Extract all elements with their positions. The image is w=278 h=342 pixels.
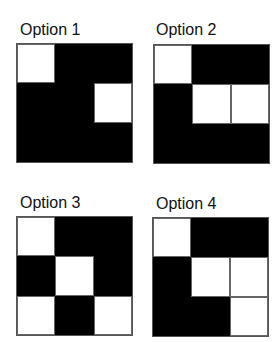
filled-cell [17,83,55,122]
option-1-grid [16,43,133,163]
filled-cell [94,256,132,295]
option-3-grid [16,216,133,336]
filled-cell [153,297,191,336]
option-2-grid [153,44,270,164]
empty-cell [231,84,269,123]
empty-cell [230,257,268,296]
filled-cell [94,217,132,256]
empty-cell [55,256,93,295]
option-1-label: Option 1 [20,22,80,38]
filled-cell [17,123,55,162]
filled-cell [192,124,230,163]
empty-cell [94,83,132,122]
filled-cell [55,44,93,83]
filled-cell [154,84,192,123]
filled-cell [17,256,55,295]
empty-cell [17,296,55,335]
filled-cell [191,297,229,336]
empty-cell [154,45,192,84]
filled-cell [55,296,93,335]
filled-cell [231,45,269,84]
option-3-label: Option 3 [20,195,80,211]
empty-cell [94,296,132,335]
empty-cell [191,257,229,296]
empty-cell [153,218,191,257]
filled-cell [192,45,230,84]
filled-cell [94,123,132,162]
filled-cell [231,124,269,163]
empty-cell [192,84,230,123]
filled-cell [153,257,191,296]
filled-cell [55,217,93,256]
option-4-grid [152,217,269,337]
option-2-label: Option 2 [156,22,216,38]
filled-cell [55,123,93,162]
filled-cell [55,83,93,122]
empty-cell [17,217,55,256]
option-4-label: Option 4 [156,196,216,212]
filled-cell [191,218,229,257]
filled-cell [230,218,268,257]
empty-cell [17,44,55,83]
empty-cell [230,297,268,336]
filled-cell [154,124,192,163]
filled-cell [94,44,132,83]
